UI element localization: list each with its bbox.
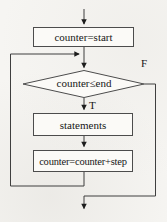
body-box: statements: [33, 113, 133, 136]
flowchart-canvas: counter=start counter≤end statements cou…: [0, 0, 167, 222]
true-branch-label: T: [89, 99, 96, 111]
init-box: counter=start: [33, 27, 134, 47]
body-label: statements: [60, 119, 106, 131]
init-label: counter=start: [54, 31, 112, 43]
false-branch-label: F: [141, 57, 147, 69]
condition-label: counter≤end: [26, 77, 142, 89]
increment-label: counter=counter+step: [39, 156, 127, 167]
increment-box: counter=counter+step: [33, 150, 133, 172]
